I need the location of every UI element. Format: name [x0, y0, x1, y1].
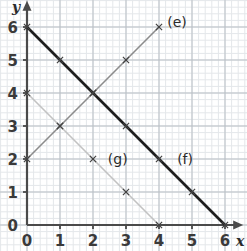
- y-axis-tick-label: 3: [8, 118, 18, 136]
- y-axis-tick-label: 4: [8, 85, 18, 103]
- x-axis-tick-label: 1: [55, 232, 65, 250]
- annotations-layer: (e)(f)(g): [108, 14, 193, 167]
- y-axis-label: y: [11, 0, 21, 15]
- x-axis-tick-label: 2: [88, 232, 98, 250]
- x-axis-tick-label: 5: [187, 232, 197, 250]
- x-axis-tick-label: 0: [22, 232, 32, 250]
- y-axis-tick-label: 2: [8, 151, 18, 169]
- graph-figure: 01234560123456 (e)(f)(g) yx: [0, 0, 247, 251]
- series-annotation-f: (f): [177, 151, 193, 167]
- x-axis-label: x: [235, 233, 245, 249]
- coordinate-plane-chart: 01234560123456 (e)(f)(g) yx: [0, 0, 247, 251]
- y-axis-tick-label: 1: [8, 184, 18, 202]
- y-axis-tick-label: 0: [8, 217, 18, 235]
- y-axis-tick-label: 5: [8, 52, 18, 70]
- x-axis-tick-label: 6: [220, 232, 230, 250]
- y-axis-arrow-icon: [23, 1, 32, 11]
- series-annotation-g: (g): [108, 151, 128, 167]
- x-axis-tick-label: 3: [121, 232, 131, 250]
- y-axis-tick-label: 6: [8, 19, 18, 37]
- x-axis-tick-label: 4: [154, 232, 164, 250]
- series-annotation-e: (e): [167, 14, 187, 30]
